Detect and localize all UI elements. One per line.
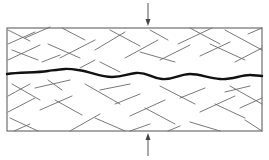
hatch-segment xyxy=(210,44,245,60)
hatch-segment xyxy=(245,120,262,131)
hatch-segment xyxy=(130,124,150,131)
hatch-segment xyxy=(8,45,40,60)
hatch-segment xyxy=(14,124,30,131)
hatch-segment xyxy=(10,118,38,131)
hatch-segment xyxy=(100,84,130,90)
bottom-load-arrow xyxy=(146,133,151,156)
hatch-segment xyxy=(42,55,60,62)
hatch-segment xyxy=(140,52,175,62)
hatch-segment xyxy=(60,40,95,58)
hatch-segment xyxy=(8,84,30,96)
hatch-segment xyxy=(200,96,235,112)
arrow-head-icon xyxy=(146,133,151,140)
hatch-segment xyxy=(235,48,262,62)
hatch-segment xyxy=(35,80,70,88)
crack-line xyxy=(7,69,262,79)
hatch-segment xyxy=(80,60,95,68)
hatch-segment xyxy=(180,88,205,98)
hatch-segment xyxy=(240,98,262,108)
hatch-segment xyxy=(12,50,38,60)
hatch-segment xyxy=(168,126,180,131)
hatch-segment xyxy=(215,104,245,118)
hatch-segment xyxy=(150,30,168,40)
hatch-segment xyxy=(40,96,72,110)
hatch-segment xyxy=(8,32,35,44)
hatch-segment xyxy=(160,45,190,60)
hatch-segment xyxy=(100,62,120,72)
arrow-head-icon xyxy=(146,19,151,26)
hatch-segment xyxy=(200,42,230,56)
hatch-segment xyxy=(160,86,195,104)
hatch-segment xyxy=(230,86,262,104)
hatch-segment xyxy=(190,122,220,131)
hatch-segment xyxy=(95,32,125,50)
hatch-segment xyxy=(145,108,175,124)
hatch-segment xyxy=(55,100,82,115)
hatch-segment xyxy=(25,27,50,38)
load-arrows xyxy=(146,3,151,156)
hatch-segment xyxy=(62,28,85,40)
hatch-segment xyxy=(225,86,250,92)
hatch-segment xyxy=(95,118,125,131)
hatch-segment xyxy=(70,114,100,131)
hatch-segment xyxy=(225,30,262,50)
hatch-segment xyxy=(130,100,165,116)
hatch-segment xyxy=(115,94,140,104)
specimen-diagram xyxy=(0,0,269,160)
top-load-arrow xyxy=(146,3,151,26)
hatch-segment xyxy=(8,98,35,112)
hatch-segment xyxy=(248,28,262,34)
